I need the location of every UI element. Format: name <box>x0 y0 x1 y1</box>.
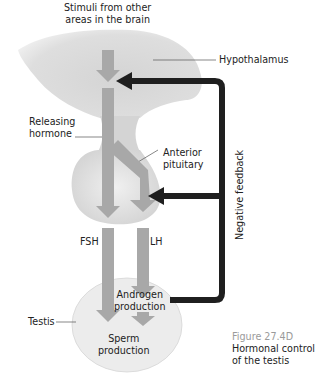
sperm-line-1: Sperm <box>98 333 150 345</box>
stimuli-label: Stimuli from other areas in the brain <box>64 2 151 26</box>
androgen-label: Androgen production <box>114 289 166 313</box>
releasing-line-2: hormone <box>29 128 75 140</box>
hypothalamus-label: Hypothalamus <box>219 54 289 66</box>
testis-label: Testis <box>28 316 55 328</box>
figure-caption: Figure 27.4D Hormonal control of the tes… <box>232 331 315 367</box>
sperm-label: Sperm production <box>98 333 150 357</box>
caption-line-2: of the testis <box>232 355 315 367</box>
figure-number: Figure 27.4D <box>232 331 315 343</box>
caption-line-1: Hormonal control <box>232 343 315 355</box>
releasing-line-1: Releasing <box>29 116 75 128</box>
releasing-hormone-label: Releasing hormone <box>29 116 75 140</box>
negative-feedback-label: Negative feedback <box>234 150 246 240</box>
pituitary-line-2: pituitary <box>163 159 204 171</box>
androgen-line-2: production <box>114 301 166 313</box>
lh-label: LH <box>150 236 163 248</box>
androgen-line-1: Androgen <box>114 289 166 301</box>
stimuli-line-1: Stimuli from other <box>64 2 151 14</box>
sperm-line-2: production <box>98 345 150 357</box>
anterior-pituitary-label: Anterior pituitary <box>163 147 204 171</box>
pituitary-line-1: Anterior <box>163 147 204 159</box>
stimuli-line-2: areas in the brain <box>64 14 151 26</box>
fsh-label: FSH <box>80 236 99 248</box>
